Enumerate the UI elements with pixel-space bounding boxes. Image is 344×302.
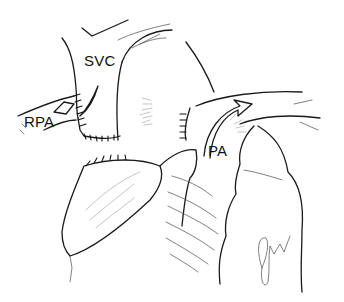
heart-body: [160, 126, 302, 292]
label-svc: SVC: [84, 53, 115, 68]
aorta: [117, 30, 214, 140]
cardiac-anatomy-drawing: [0, 0, 344, 302]
pulmonary-artery: [180, 92, 320, 140]
artist-signature-icon: [259, 236, 290, 285]
label-rpa: RPA: [24, 114, 54, 129]
svc-vessel: [62, 20, 170, 138]
label-pa: PA: [208, 143, 227, 158]
illustration-canvas: SVC RPA PA: [0, 0, 344, 302]
suture-line-svc: [74, 94, 114, 141]
right-atrium: [62, 155, 162, 282]
